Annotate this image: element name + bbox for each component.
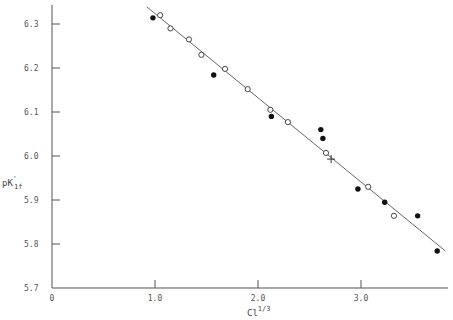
- open-circle-point: [366, 184, 371, 189]
- y-tick-label: 6.0: [24, 152, 39, 161]
- filled-circle-point: [150, 15, 155, 20]
- filled-circle-point: [415, 213, 420, 218]
- x-axis-label: Cl1/3: [247, 305, 271, 318]
- y-tick-label: 5.8: [24, 240, 39, 249]
- open-circle-point: [245, 87, 250, 92]
- filled-circle-point: [355, 186, 360, 191]
- y-tick-label: 6.3: [24, 20, 39, 29]
- y-ticks: 5.75.85.96.06.16.26.3: [24, 20, 60, 293]
- filled-circle-point: [320, 136, 325, 141]
- axes: [52, 5, 448, 288]
- x-tick-label: 1.0: [148, 294, 163, 303]
- filled-circle-point: [269, 114, 274, 119]
- data-points: [150, 13, 440, 254]
- filled-circle-point: [211, 72, 216, 77]
- open-circle-point: [186, 37, 191, 42]
- open-circle-point: [222, 66, 227, 71]
- open-circle-point: [268, 107, 273, 112]
- open-circle-point: [323, 150, 328, 155]
- y-axis-label: pK'1f: [2, 175, 23, 191]
- open-circle-point: [158, 13, 163, 18]
- chart: 5.75.85.96.06.16.26.3 01.02.03.0 pK'1f C…: [0, 0, 453, 320]
- y-tick-label: 5.7: [24, 284, 39, 293]
- filled-circle-point: [318, 127, 323, 132]
- x-tick-label: 3.0: [354, 294, 369, 303]
- filled-circle-point: [435, 248, 440, 253]
- x-ticks: 01.02.03.0: [50, 280, 369, 303]
- open-circle-point: [285, 120, 290, 125]
- filled-circle-point: [382, 200, 387, 205]
- y-tick-label: 6.1: [24, 108, 39, 117]
- x-tick-label: 2.0: [251, 294, 266, 303]
- open-circle-point: [168, 26, 173, 31]
- y-tick-label: 6.2: [24, 64, 39, 73]
- open-circle-point: [199, 52, 204, 57]
- regression-line: [147, 7, 446, 251]
- fit-line: [147, 7, 446, 251]
- cross-point: [327, 155, 335, 163]
- open-circle-point: [391, 213, 396, 218]
- x-tick-label: 0: [50, 294, 55, 303]
- y-tick-label: 5.9: [24, 196, 39, 205]
